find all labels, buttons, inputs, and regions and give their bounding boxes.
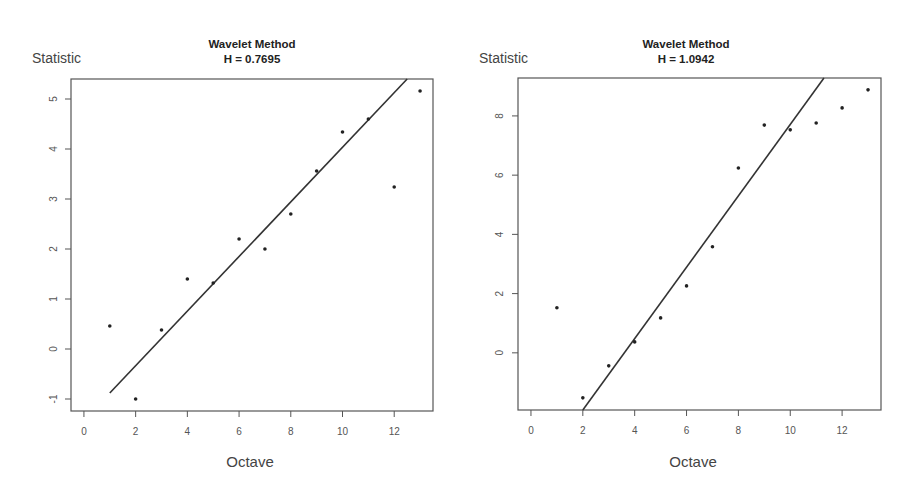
x-tick-label: 10 — [785, 425, 797, 436]
chart-panel-right: Statistic Wavelet Method H = 1.0942 0246… — [0, 0, 921, 492]
data-point — [763, 123, 767, 127]
plot-frame — [518, 78, 881, 410]
data-point — [659, 316, 663, 320]
data-point — [737, 166, 741, 170]
data-point — [607, 364, 611, 368]
x-tick-label: 4 — [632, 425, 638, 436]
y-tick-label: 2 — [495, 290, 506, 296]
data-point — [581, 396, 585, 400]
data-point — [711, 245, 715, 249]
y-tick-label: 6 — [495, 172, 506, 178]
data-point — [866, 88, 870, 92]
x-tick-label: 2 — [580, 425, 586, 436]
regression-line — [583, 78, 824, 410]
data-point — [814, 121, 818, 125]
data-point — [685, 284, 689, 288]
y-tick-label: 0 — [495, 350, 506, 356]
data-point — [840, 106, 844, 110]
x-tick-label: 8 — [736, 425, 742, 436]
x-tick-label: 12 — [837, 425, 849, 436]
plot-area: 02468101202468 — [0, 0, 921, 492]
x-tick-label: 6 — [684, 425, 690, 436]
data-point — [555, 306, 559, 310]
data-point — [788, 128, 792, 132]
x-axis-label: Octave — [643, 453, 743, 470]
y-tick-label: 4 — [495, 231, 506, 237]
x-tick-label: 0 — [528, 425, 534, 436]
data-point — [633, 340, 637, 344]
y-tick-label: 8 — [495, 113, 506, 119]
